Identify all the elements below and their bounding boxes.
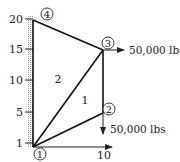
member-1-3 [33,50,103,147]
svg-text:4: 4 [44,9,50,20]
load-label-node-3: 50,000 lbs [129,44,180,56]
svg-text:1: 1 [37,149,43,160]
y-tick-5: 5 [16,106,23,119]
y-tick-10: 10 [9,74,23,87]
x-tick-10: 10 [97,149,111,162]
y-tick-1: 1 [16,137,23,150]
y-tick-15: 15 [9,43,23,56]
node-4: 4 [41,8,53,20]
svg-text:2: 2 [106,104,112,115]
svg-text:3: 3 [105,38,111,49]
element-label-2: 2 [55,73,62,86]
member-1-2 [33,113,103,147]
load-label-node-2: 50,000 lbs [110,123,166,135]
node-1: 1 [34,148,46,160]
node-2: 2 [103,103,115,115]
member-4-3 [33,20,103,50]
element-label-1: 1 [82,94,89,107]
fixed-wall-support [27,15,33,148]
node-3: 3 [102,37,114,49]
truss-diagram: 20 15 10 5 1 10 1 2 1 2 3 4 50,000 lbs 5… [0,0,180,162]
truss-members [33,20,103,147]
y-tick-20: 20 [9,13,23,26]
